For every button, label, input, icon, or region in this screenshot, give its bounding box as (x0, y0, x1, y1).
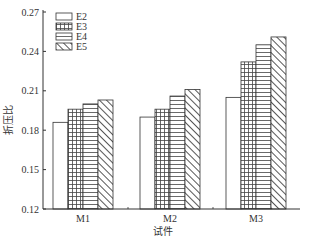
y-tick-label: 0.24 (22, 46, 40, 57)
bar-m2-e4 (170, 96, 185, 209)
bar-m3-e2 (226, 97, 241, 209)
bar-m2-e2 (140, 117, 155, 209)
y-tick-label: 0.18 (22, 125, 40, 136)
legend: E2E3E4E5 (56, 11, 87, 52)
legend-swatch-e2 (56, 13, 72, 20)
x-tick-label: M2 (163, 213, 177, 224)
bar-m1-e4 (83, 104, 98, 209)
legend-swatch-e3 (56, 23, 72, 30)
legend-swatch-e5 (56, 43, 72, 50)
bars-group (53, 37, 286, 209)
y-tick-label: 0.15 (22, 164, 40, 175)
y-tick-label: 0.21 (22, 85, 40, 96)
x-tick-label: M3 (249, 213, 263, 224)
bar-m1-e5 (98, 100, 113, 209)
bar-m2-e3 (155, 109, 170, 209)
bar-m3-e3 (241, 62, 256, 209)
bar-m3-e4 (256, 45, 271, 209)
y-tick-label: 0.27 (22, 7, 40, 18)
bar-chart: M1M2M30.120.150.180.210.240.27 E2E3E4E5 … (0, 0, 309, 244)
bar-m1-e2 (53, 122, 68, 209)
y-tick-label: 0.12 (22, 204, 40, 215)
y-axis-title: 折压比 (2, 105, 14, 135)
x-tick-label: M1 (76, 213, 90, 224)
bar-m3-e5 (271, 37, 286, 209)
bar-m2-e5 (185, 89, 200, 209)
legend-label: E5 (76, 41, 87, 52)
legend-swatch-e4 (56, 33, 72, 40)
x-axis-title: 试件 (153, 225, 173, 237)
bar-m1-e3 (68, 109, 83, 209)
